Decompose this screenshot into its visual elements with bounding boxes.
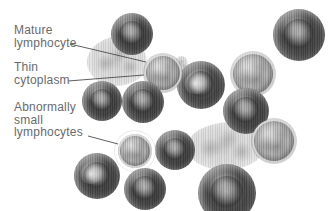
label-thin-cytoplasm: Thin cytoplasm [14,61,70,86]
rbc-top-center [111,13,153,55]
label-text-line: lymphocyte [14,37,77,50]
cell-center-right [177,61,225,109]
rbc-mid-center [122,81,164,123]
label-abnormally-small-lymphocytes: Abnormally small lymphocytes [14,101,83,139]
label-text-line: Thin [14,61,70,74]
rbc-bottom-left [74,153,120,199]
rbc-center [155,130,195,170]
blood-cells-figure: Mature lymphocyte Thin cytoplasm Abnorma… [0,0,329,211]
rbc-bottom-center [124,168,166,210]
textured-cell-right-lower [252,119,296,163]
rbc-mid-left [82,81,122,121]
label-text-line: cytoplasm [14,74,70,87]
rbc-top-right [273,9,325,61]
rbc-bottom-right-large [198,164,256,211]
label-text-line: Mature [14,24,77,37]
label-text-line: lymphocytes [14,126,83,139]
label-mature-lymphocyte: Mature lymphocyte [14,24,77,49]
label-text-line: Abnormally [14,101,83,114]
abnormally-small-lymphocyte-cell [118,134,152,168]
